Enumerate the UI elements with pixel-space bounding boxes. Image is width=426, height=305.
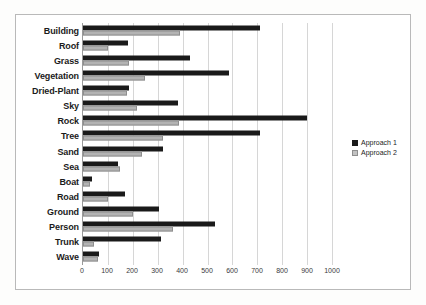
bar-row: Sky [83, 99, 332, 114]
x-tick-label: 900 [301, 267, 313, 274]
bar-group [83, 191, 332, 202]
bar-approach-2[interactable] [83, 257, 98, 262]
category-label: Dried-Plant [32, 86, 79, 96]
category-label: Trunk [55, 237, 79, 247]
x-tick-label: 600 [226, 267, 238, 274]
bar-approach-2[interactable] [83, 91, 127, 96]
x-tick-label: 300 [151, 267, 163, 274]
bar-group [83, 161, 332, 172]
x-tick-label: 700 [251, 267, 263, 274]
category-label: Road [57, 192, 79, 202]
bar-approach-2[interactable] [83, 45, 108, 50]
bar-group [83, 70, 332, 81]
category-label: Building [44, 26, 79, 36]
gridline [332, 23, 333, 265]
bar-row: Road [83, 189, 332, 204]
bar-group [83, 176, 332, 187]
legend-item[interactable]: Approach 1 [352, 139, 397, 146]
bar-group [83, 252, 332, 263]
bar-group [83, 55, 332, 66]
bar-row: Building [83, 23, 332, 38]
category-label: Sea [63, 162, 79, 172]
category-label: Wave [56, 252, 79, 262]
chart-container: BuildingRoofGrassVegetationDried-PlantSk… [15, 14, 411, 290]
x-tick-label: 400 [176, 267, 188, 274]
bar-approach-2[interactable] [83, 227, 173, 232]
bar-row: Dried-Plant [83, 84, 332, 99]
category-label: Sky [63, 101, 79, 111]
bar-group [83, 86, 332, 97]
bar-row: Rock [83, 114, 332, 129]
bar-approach-1[interactable] [83, 237, 161, 242]
x-tick-label: 200 [126, 267, 138, 274]
bar-approach-2[interactable] [83, 60, 129, 65]
bar-group [83, 237, 332, 248]
category-label: Tree [61, 131, 79, 141]
category-label: Rock [57, 116, 79, 126]
bar-row: Sea [83, 159, 332, 174]
x-tick-label: 1000 [324, 267, 340, 274]
bar-approach-2[interactable] [83, 181, 90, 186]
category-label: Roof [59, 41, 79, 51]
bar-approach-2[interactable] [83, 212, 133, 217]
bar-group [83, 131, 332, 142]
bar-group [83, 207, 332, 218]
bar-approach-2[interactable] [83, 166, 120, 171]
x-tick-label: 100 [101, 267, 113, 274]
bar-group [83, 116, 332, 127]
bar-row: Ground [83, 205, 332, 220]
category-label: Person [49, 222, 79, 232]
bar-approach-2[interactable] [83, 30, 180, 35]
plot-area: BuildingRoofGrassVegetationDried-PlantSk… [82, 23, 332, 265]
bar-group [83, 25, 332, 36]
bar-row: Wave [83, 250, 332, 265]
bar-group [83, 40, 332, 51]
bar-approach-2[interactable] [83, 121, 179, 126]
bar-approach-2[interactable] [83, 106, 137, 111]
legend-item[interactable]: Approach 2 [352, 149, 397, 156]
bar-approach-2[interactable] [83, 136, 163, 141]
x-axis: 01002003004005006007008009001000 [82, 265, 332, 279]
bar-group [83, 146, 332, 157]
bar-approach-2[interactable] [83, 242, 94, 247]
bar-group [83, 222, 332, 233]
chart-legend: Approach 1Approach 2 [352, 139, 397, 159]
category-label: Ground [47, 207, 79, 217]
x-tick-label: 500 [201, 267, 213, 274]
bar-approach-2[interactable] [83, 196, 108, 201]
x-tick-label: 800 [276, 267, 288, 274]
legend-swatch-icon [352, 140, 358, 146]
legend-label: Approach 1 [361, 139, 397, 146]
bar-row: Person [83, 220, 332, 235]
bar-row: Tree [83, 129, 332, 144]
legend-swatch-icon [352, 150, 358, 156]
bar-row: Roof [83, 38, 332, 53]
bar-approach-2[interactable] [83, 151, 142, 156]
bar-row: Trunk [83, 235, 332, 250]
bar-row: Boat [83, 174, 332, 189]
bar-group [83, 101, 332, 112]
bar-row: Grass [83, 53, 332, 68]
legend-label: Approach 2 [361, 149, 397, 156]
category-label: Grass [54, 56, 79, 66]
category-label: Boat [59, 177, 79, 187]
bar-row: Vegetation [83, 68, 332, 83]
x-tick-label: 0 [80, 267, 84, 274]
bar-row: Sand [83, 144, 332, 159]
category-label: Sand [57, 147, 79, 157]
bar-approach-2[interactable] [83, 75, 145, 80]
bar-rows: BuildingRoofGrassVegetationDried-PlantSk… [83, 23, 332, 265]
category-label: Vegetation [34, 71, 79, 81]
